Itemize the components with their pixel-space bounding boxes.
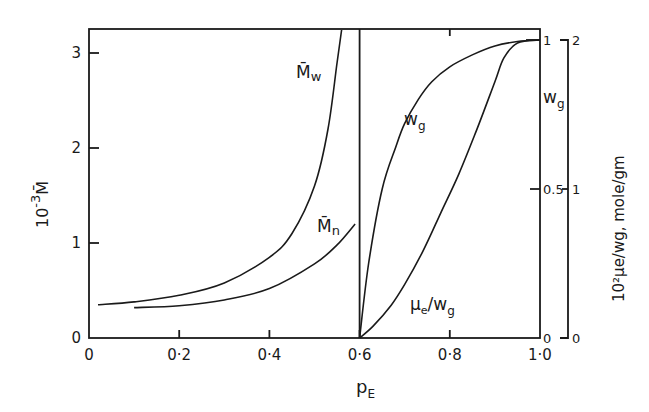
y-left-tick-label: 2 [71,139,81,157]
annotation-mu-e-wg: μe/wg [410,294,455,318]
y-axis-right-outer-label: 10²μe/wg, mole/gm [610,155,628,302]
series-curve-mn [134,224,355,308]
y-axis-left-label: 10-3M̄ [28,181,52,228]
tick-labels-layer: 00·20·40·60·81·0012300.51012 [71,33,580,364]
series-curve-ewg [360,40,540,338]
series-curve-wg [360,40,540,338]
x-tick-label: 0·4 [257,346,281,364]
y-left-tick-label: 3 [71,44,81,62]
axes-layer [89,29,568,338]
x-tick-label: 0·6 [348,346,372,364]
y-axis-right-inner-label: wg [543,87,565,111]
chart-figure: 00·20·40·60·81·0012300.51012 pE 10-3M̄ 1… [0,0,649,412]
y-right-outer-tick-label: 0 [572,331,580,346]
x-tick-label: 1·0 [528,346,552,364]
y-left-tick-label: 0 [71,329,81,347]
y-right-inner-tick-label: 0.5 [543,182,564,197]
annotation-wg: wg [404,109,426,133]
x-tick-label: 0·2 [167,346,191,364]
y-right-inner-tick-label: 0 [543,331,551,346]
annotation-mn: M̄n [317,215,340,238]
annotation-mw: M̄w [296,61,322,84]
y-right-outer-tick-label: 1 [572,182,580,197]
x-tick-label: 0 [84,346,94,364]
y-right-outer-tick-label: 2 [572,33,580,48]
y-left-tick-label: 1 [71,234,81,252]
x-tick-label: 0·8 [438,346,462,364]
y-right-inner-tick-label: 1 [543,33,551,48]
x-axis-label: pE [356,376,375,401]
